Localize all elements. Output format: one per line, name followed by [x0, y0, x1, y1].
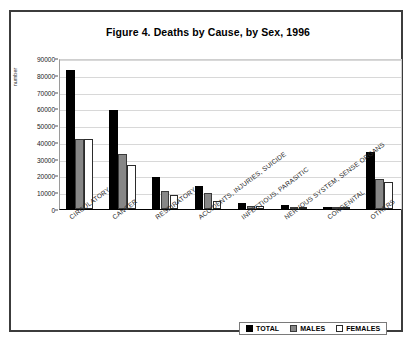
- legend-label: TOTAL: [256, 325, 279, 332]
- y-axis-tick-mark: [55, 126, 58, 127]
- legend-item: MALES: [290, 325, 325, 332]
- y-axis-tick-label: 30000: [13, 156, 55, 163]
- bar-group: [103, 60, 146, 209]
- y-axis-tick-label: 10000: [13, 190, 55, 197]
- y-axis-tick-mark: [55, 159, 58, 160]
- y-axis-tick-mark: [55, 109, 58, 110]
- bar-group: [360, 60, 403, 209]
- bar-total: [323, 207, 332, 209]
- y-axis-tick-mark: [55, 75, 58, 76]
- legend-label: MALES: [300, 325, 325, 332]
- y-axis-tick-mark: [55, 142, 58, 143]
- y-axis-tick-label: 90000: [13, 56, 55, 63]
- bar-group: [146, 60, 189, 209]
- y-axis-tick-mark: [55, 59, 58, 60]
- page-title: Figure 4. Deaths by Cause, by Sex, 1996: [11, 26, 405, 38]
- bar-males: [118, 154, 127, 209]
- bar-total: [281, 205, 290, 209]
- bar-total: [66, 70, 75, 209]
- y-axis-tick-mark: [55, 92, 58, 93]
- y-axis-tick-label: 40000: [13, 139, 55, 146]
- plot-area: [59, 59, 402, 210]
- legend-swatch: [246, 325, 253, 332]
- legend-swatch: [336, 325, 343, 332]
- y-axis-tick-label: 80000: [13, 72, 55, 79]
- y-axis-tick-label: 50000: [13, 123, 55, 130]
- y-axis-tick-label: 60000: [13, 106, 55, 113]
- bar-males: [75, 139, 84, 209]
- legend-swatch: [290, 325, 297, 332]
- figure-frame: Figure 4. Deaths by Cause, by Sex, 1996 …: [9, 10, 403, 332]
- legend: TOTALMALESFEMALES: [239, 322, 387, 335]
- bar-group: [60, 60, 103, 209]
- bar-total: [366, 152, 375, 209]
- legend-item: TOTAL: [246, 325, 279, 332]
- legend-item: FEMALES: [336, 325, 380, 332]
- y-axis-tick-label: 20000: [13, 173, 55, 180]
- y-axis-tick-mark: [55, 193, 58, 194]
- x-axis-labels: CIRCULATORYCANCERRESPIRATORYACCIDENTS, I…: [11, 211, 405, 311]
- bar-total: [238, 203, 247, 209]
- legend-label: FEMALES: [346, 325, 380, 332]
- bar-group: [189, 60, 232, 209]
- y-axis-tick-mark: [55, 176, 58, 177]
- y-axis: 0100002000030000400005000060000700008000…: [11, 59, 55, 210]
- bar-total: [109, 110, 118, 209]
- bar-total: [152, 177, 161, 209]
- y-axis-tick-label: 70000: [13, 89, 55, 96]
